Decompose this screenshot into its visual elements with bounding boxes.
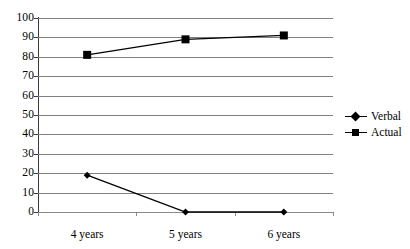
data-point-actual-0[interactable] [83, 51, 91, 59]
chart-legend: Verbal Actual [345, 108, 409, 140]
data-point-actual-2[interactable] [280, 31, 288, 39]
legend-label-actual: Actual [367, 126, 402, 138]
diamond-marker-icon [345, 110, 367, 122]
data-point-actual-1[interactable] [182, 35, 190, 43]
series-line-verbal [87, 175, 284, 212]
square-marker-icon [345, 126, 367, 138]
legend-item-actual[interactable]: Actual [345, 124, 409, 140]
legend-item-verbal[interactable]: Verbal [345, 108, 409, 124]
data-point-verbal-1[interactable] [182, 209, 189, 216]
line-chart: 0102030405060708090100 4 years5 years6 y… [0, 0, 410, 249]
data-point-verbal-0[interactable] [84, 172, 91, 179]
legend-label-verbal: Verbal [367, 110, 401, 122]
data-point-verbal-2[interactable] [280, 209, 287, 216]
